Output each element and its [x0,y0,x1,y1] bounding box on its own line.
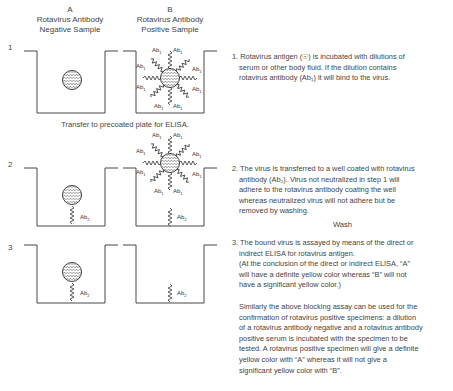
step-1-description: 1. Rotavirus antigen (☉) is incubated wi… [232,52,453,84]
summary-line-2: confirmation of rotavirus positive speci… [239,313,453,324]
svg-text:Ab1: Ab1 [152,132,162,140]
svg-text:Ab1: Ab1 [192,171,202,179]
summary-line-6: yellow color with “A” whereas it will no… [239,355,453,366]
step-2-line-1: 2. The virus is transferred to a well co… [232,164,415,173]
svg-text:Ab1: Ab1 [173,47,183,55]
svg-text:Ab1: Ab1 [136,169,146,177]
svg-text:Ab1: Ab1 [173,188,183,196]
svg-text:Ab1: Ab1 [192,151,202,159]
summary-line-4: positive serum is incubated with the spe… [239,334,453,345]
svg-text:Ab1: Ab1 [154,103,164,111]
step-2-line-4: whereas neutralized virus will not adher… [232,196,453,207]
step-3-line-2: indirect ELISA for rotavirus antigen. [232,249,453,260]
svg-text:Ab1: Ab1 [154,188,164,196]
svg-text:Ab1: Ab1 [136,84,146,92]
step-3-line-5: have a significant yellow color.) [232,280,453,291]
virus-particle-icon [63,71,82,90]
step-3-line-4: will have a definite yellow color wherea… [232,270,453,281]
svg-text:Ab2: Ab2 [177,290,187,298]
step-3-line-3: (At the conclusion of the direct or indi… [232,259,453,270]
assay-diagram: Ab1 Ab1 Ab1 Ab1 Ab1 Ab1 Ab1 Ab1 Ab2 Ab1 [0,0,230,391]
svg-text:Ab1: Ab1 [192,66,202,74]
step-3-line-1: 3. The bound virus is assayed by means o… [232,238,413,247]
summary-line-3: of a rotavirus antibody negative and a r… [239,323,453,334]
step-2-line-5: removed by washing. [232,206,453,217]
step-3-well-b: Ab2 [123,245,217,303]
step-2-line-2: antibody (Ab₂). Virus not neutralized in… [232,175,453,186]
summary-line-5: tested. A rotavirus positive specimen wi… [239,344,453,355]
step-2-description: 2. The virus is transferred to a well co… [232,164,453,217]
summary-line-7: significant yellow color with “B”. [239,366,453,377]
summary-paragraph: Similarly the above blocking assay can b… [239,302,453,376]
step-2-line-3: adhere to the rotavirus antibody coating… [232,185,453,196]
svg-text:Ab2: Ab2 [80,214,90,222]
neutralized-virus-cluster: Ab1 Ab1 Ab1 Ab1 Ab1 Ab1 Ab1 Ab1 [136,47,202,111]
svg-text:Ab2: Ab2 [177,214,187,222]
wash-note: Wash [232,220,453,229]
step-1-line-1: 1. Rotavirus antigen (☉) is incubated wi… [232,52,405,61]
svg-text:Ab1: Ab1 [136,148,146,156]
transfer-note: Transfer to precoated plate for ELISA. [30,120,220,129]
step-1-line-2: serum or other body fluid. If the diluti… [232,63,453,74]
svg-text:Ab1: Ab1 [192,86,202,94]
step-2-well-a: Ab2 [24,168,118,226]
svg-text:Ab1: Ab1 [136,63,146,71]
summary-line-1: Similarly the above blocking assay can b… [239,302,453,313]
step-1-well-b: Ab1 Ab1 Ab1 Ab1 Ab1 Ab1 Ab1 Ab1 [123,47,217,113]
step-1-line-3: rotavirus antibody (Ab₁) it will bind to… [232,73,453,84]
step-1-well-a [24,51,118,113]
svg-text:Ab1: Ab1 [152,47,162,55]
step-3-description: 3. The bound virus is assayed by means o… [232,238,453,291]
step-3-well-a: Ab2 [24,245,118,303]
step-2-well-b: Ab1 Ab1 Ab1 Ab1 Ab1 Ab1 Ab1 Ab1 Ab2 [123,132,217,226]
svg-text:Ab1: Ab1 [173,132,183,140]
svg-text:Ab2: Ab2 [80,290,90,298]
svg-text:Ab1: Ab1 [173,103,183,111]
